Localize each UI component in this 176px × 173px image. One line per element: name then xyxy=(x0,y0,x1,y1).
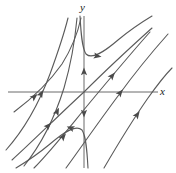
solution-curve xyxy=(34,32,150,168)
curve-direction-arrow xyxy=(30,92,40,102)
solution-curve xyxy=(12,28,152,160)
solution-curve xyxy=(66,34,168,168)
figure-container: y x xyxy=(0,0,176,173)
solution-curves-plot xyxy=(0,0,176,173)
solution-curve xyxy=(80,16,152,56)
curve-direction-arrow xyxy=(37,88,46,98)
solution-curve xyxy=(14,18,81,112)
y-axis-label: y xyxy=(80,2,85,13)
solution-curve xyxy=(6,18,68,150)
x-axis-label: x xyxy=(160,86,165,97)
curve-direction-arrow xyxy=(93,52,102,59)
